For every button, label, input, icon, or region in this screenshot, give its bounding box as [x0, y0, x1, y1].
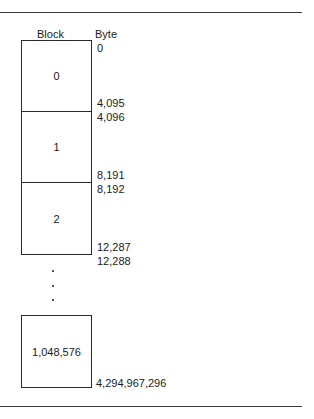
- block-label: 1: [53, 141, 59, 153]
- block-0: 0: [21, 40, 92, 112]
- block-last: 1,048,576: [21, 315, 92, 388]
- byte-column-header: Byte: [95, 28, 117, 40]
- top-rule: [0, 12, 302, 13]
- block-column-header: Block: [37, 28, 64, 40]
- block-label: 2: [53, 213, 59, 225]
- block-1: 1: [21, 111, 92, 183]
- ellipsis-dot-icon: [52, 270, 54, 272]
- ellipsis-dot-icon: [52, 299, 54, 301]
- block-label: 0: [53, 70, 59, 82]
- ellipsis-dot-icon: [52, 285, 54, 287]
- block-label: 1,048,576: [32, 346, 81, 358]
- bottom-rule: [0, 406, 302, 407]
- byte-label-continuation: 12,288: [97, 255, 131, 267]
- byte-label-2-start: 8,192: [97, 183, 125, 195]
- byte-label-1-start: 4,096: [97, 111, 125, 123]
- byte-label-0-start: 0: [97, 42, 103, 54]
- block-2: 2: [21, 182, 92, 255]
- byte-label-0-end: 4,095: [97, 97, 125, 109]
- byte-label-last-end: 4,294,967,296: [96, 377, 166, 389]
- byte-label-1-end: 8,191: [97, 169, 125, 181]
- byte-label-2-end: 12,287: [97, 241, 131, 253]
